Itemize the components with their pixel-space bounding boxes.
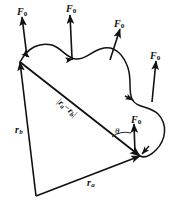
- force-symbol: F: [66, 3, 73, 14]
- force-symbol: F: [17, 6, 24, 17]
- force-label-top-right: F0: [114, 19, 124, 30]
- force-subscript: 0: [24, 10, 28, 18]
- vector-ra: [36, 156, 140, 196]
- force-arrow-lower-right: [134, 124, 135, 153]
- force-arrow-right: [152, 61, 156, 102]
- contour-tick-lower: [142, 146, 149, 154]
- force-subscript: 0: [138, 118, 142, 126]
- force-label-top-left: F0: [17, 7, 27, 18]
- force-label-right: F0: [150, 51, 160, 62]
- figure-container: F0 F0 F0 F0 F0 rb ra |ra−rb| θ: [0, 0, 177, 214]
- force-subscript: 0: [73, 7, 77, 15]
- vector-separation: [20, 62, 140, 156]
- vector-label-ra: ra: [87, 178, 95, 189]
- angle-label-theta: θ: [115, 127, 119, 136]
- force-subscript: 0: [121, 22, 125, 30]
- force-label-lower-right: F0: [131, 115, 141, 126]
- force-arrow-top-right: [110, 29, 120, 60]
- vector-subscript: a: [91, 181, 95, 189]
- body-outline: [20, 44, 165, 157]
- force-symbol: F: [131, 114, 138, 125]
- force-arrow-top-left: [22, 17, 27, 57]
- force-symbol: F: [150, 50, 157, 61]
- force-arrow-top-mid: [70, 15, 72, 58]
- contour-tick-mid: [67, 59, 73, 60]
- force-subscript: 0: [157, 54, 161, 62]
- vector-label-rb: rb: [15, 125, 23, 136]
- force-label-top-mid: F0: [66, 4, 76, 15]
- force-symbol: F: [114, 18, 121, 29]
- vector-subscript: b: [19, 128, 23, 136]
